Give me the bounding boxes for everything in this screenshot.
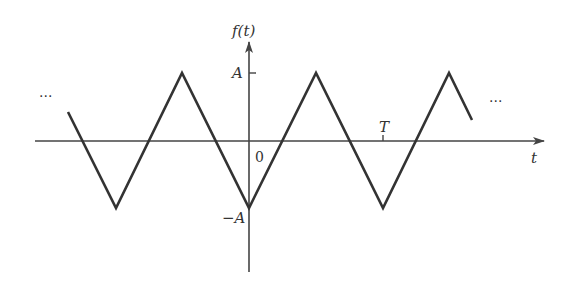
ellipsis-right: ···	[489, 93, 502, 109]
y-axis-label: f(t)	[231, 22, 255, 40]
amplitude-pos-label: A	[230, 64, 243, 82]
ellipsis-left: ···	[39, 88, 52, 104]
triangle-wave-diagram: f(t) t A −A 0 T ··· ···	[0, 0, 566, 286]
period-label: T	[379, 118, 390, 136]
amplitude-neg-label: −A	[222, 209, 246, 227]
x-axis-label: t	[531, 149, 538, 167]
origin-label: 0	[255, 149, 264, 165]
